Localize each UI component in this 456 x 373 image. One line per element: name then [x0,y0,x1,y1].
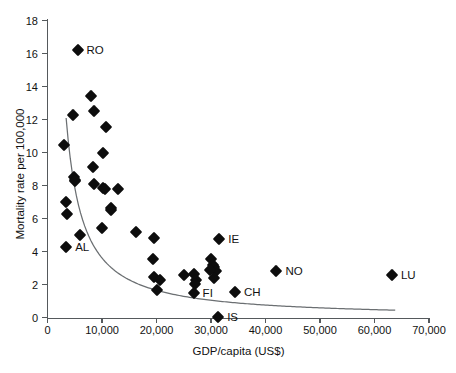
x-tick-40000 [265,318,266,323]
y-tick-18 [42,20,47,21]
x-tick-label-10000: 10,000 [85,324,119,336]
data-point [88,105,101,118]
data-point [85,89,98,102]
plot-area: 024681012141618 010,00020,00030,00040,00… [0,0,456,373]
data-point [150,284,163,297]
point-label-CH: CH [244,286,261,298]
data-point [58,139,71,152]
y-tick-label-18: 18 [14,15,38,27]
scatter-chart-figure: 024681012141618 010,00020,00030,00040,00… [0,0,456,373]
data-point-LU [386,268,399,281]
data-point [86,161,99,174]
point-label-IS: IS [227,311,238,323]
data-point [112,183,125,196]
data-point-IS [212,310,225,323]
y-tick-14 [42,86,47,87]
point-label-LU: LU [401,269,416,281]
point-label-AL: AL [75,241,89,253]
x-axis-title: GDP/capita (US$) [47,345,430,357]
point-label-RO: RO [87,44,104,56]
data-point [96,147,109,160]
x-tick-30000 [210,318,211,323]
data-point [60,207,73,220]
point-label-NO: NO [285,265,302,277]
x-tick-50000 [319,318,320,323]
x-tick-label-30000: 30,000 [194,324,228,336]
x-tick-label-50000: 50,000 [303,324,337,336]
data-point-RO [71,44,84,57]
x-tick-label-0: 0 [45,324,51,336]
data-point [73,229,86,242]
y-tick-4 [42,251,47,252]
x-tick-label-70000: 70,000 [412,324,446,336]
y-tick-label-16: 16 [14,48,38,60]
data-point [129,225,142,238]
y-tick-12 [42,119,47,120]
y-tick-8 [42,185,47,186]
x-tick-label-60000: 60,000 [358,324,392,336]
point-label-FI: FI [203,287,213,299]
y-tick-10 [42,152,47,153]
point-label-IE: IE [228,233,239,245]
x-tick-20000 [156,318,157,323]
y-tick-2 [42,284,47,285]
y-axis-line [47,19,48,319]
data-point-CH [229,286,242,299]
y-tick-6 [42,218,47,219]
data-point-NO [270,264,283,277]
y-axis-title: Mortality rate per 100,000 [14,74,26,274]
x-axis-line [47,318,430,319]
x-tick-60000 [374,318,375,323]
data-point-AL [60,241,73,254]
data-point [147,253,160,266]
x-tick-70000 [428,318,429,323]
data-point [95,221,108,234]
data-point [67,108,80,121]
y-tick-16 [42,53,47,54]
data-point [147,232,160,245]
x-tick-label-20000: 20,000 [140,324,174,336]
x-tick-10000 [101,318,102,323]
y-tick-label-2: 2 [14,279,38,291]
data-point [100,121,113,134]
data-point-FI [187,286,200,299]
x-tick-0 [47,318,48,323]
data-point [59,196,72,209]
data-point-IE [213,233,226,246]
y-tick-label-0: 0 [14,312,38,324]
x-tick-label-40000: 40,000 [249,324,283,336]
